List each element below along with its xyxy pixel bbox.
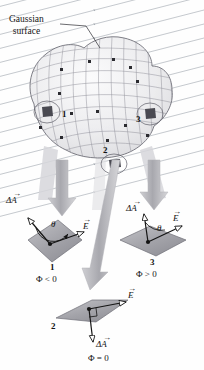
gaussian-surface-label: Gaussian surface: [9, 14, 44, 38]
panel-1: [28, 218, 84, 262]
panel-3-number: 3: [150, 258, 155, 267]
panel-1-flux-label: Φ < 0: [36, 275, 57, 284]
gaussian-surface-body: [30, 37, 172, 158]
surface-marker-1: 1: [62, 110, 67, 119]
panel-1-theta-label: θ: [51, 220, 55, 229]
panel-3-e-label: → E: [173, 214, 179, 223]
panel-3-flux-label: Φ > 0: [136, 270, 157, 279]
panel-2: [56, 300, 128, 342]
panel-3-delta-a-label: → ΔA: [126, 204, 137, 213]
panel-3-patch: [120, 226, 186, 256]
panel-3-theta-label: θ: [157, 224, 161, 233]
panel-1-number: 1: [50, 263, 55, 272]
panel-2-number: 2: [51, 322, 56, 331]
panel-2-e-label: → E: [128, 291, 134, 300]
panel-1-delta-a-label: → ΔA: [6, 196, 17, 205]
flux-gaussian-surface-figure: Gaussian surface 1 2 3 → ΔA → E θ 1 Φ < …: [0, 0, 204, 370]
panel-2-delta-a-label: → ΔA: [96, 340, 107, 349]
figure-canvas: [0, 0, 204, 370]
callout-arrow-right: [140, 160, 168, 210]
surface-marker-3: 3: [136, 115, 141, 124]
gaussian-surface-label-line1: Gaussian: [9, 14, 44, 26]
panel-1-e-label: → E: [83, 222, 89, 231]
panel-2-flux-label: Φ = 0: [88, 354, 109, 363]
surface-marker-2: 2: [103, 146, 108, 155]
gaussian-surface-label-line2: surface: [9, 26, 44, 38]
